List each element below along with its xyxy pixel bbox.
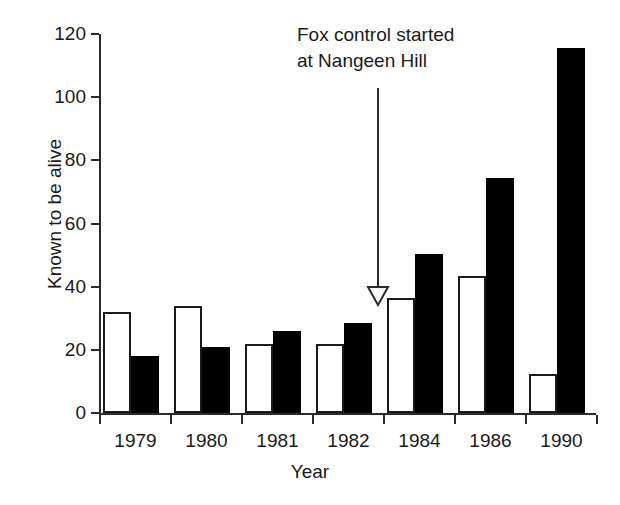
bar-1982-open-bars (316, 344, 344, 413)
x-tick-label: 1979 (100, 430, 171, 452)
y-tick-label: 0 (24, 403, 86, 422)
x-tick-mark (170, 415, 172, 424)
x-tick-mark (596, 415, 598, 424)
annotation-line-2: at Nangeen Hill (297, 48, 454, 74)
bar-1984-open-bars (387, 298, 415, 413)
x-tick-mark (241, 415, 243, 424)
x-tick-mark (454, 415, 456, 424)
y-axis-title: Known to be alive (44, 64, 66, 364)
bar-1979-filled-bars (131, 356, 159, 413)
x-tick-label: 1980 (171, 430, 242, 452)
bar-1981-filled-bars (273, 331, 301, 413)
x-tick-mark (525, 415, 527, 424)
y-axis-line (99, 34, 101, 415)
bar-chart: 020406080100120 197919801981198219841986… (0, 0, 620, 505)
bar-1981-open-bars (245, 344, 273, 413)
bar-1979-open-bars (103, 312, 131, 413)
annotation-line-1: Fox control started (297, 22, 454, 48)
x-axis-line (99, 413, 596, 415)
y-tick-mark (91, 33, 99, 35)
bar-1986-open-bars (458, 276, 486, 413)
annotation-arrow-shaft (377, 88, 379, 286)
x-tick-label: 1986 (455, 430, 526, 452)
x-tick-label: 1984 (384, 430, 455, 452)
bar-1986-filled-bars (486, 178, 514, 413)
y-tick-mark (91, 412, 99, 414)
x-tick-label: 1982 (313, 430, 384, 452)
bar-1990-filled-bars (557, 48, 585, 413)
annotation-arrow-head-icon (366, 285, 390, 307)
y-tick-mark (91, 223, 99, 225)
y-tick-mark (91, 286, 99, 288)
fox-control-annotation: Fox control started at Nangeen Hill (297, 22, 454, 74)
bar-1984-filled-bars (415, 254, 443, 413)
x-tick-mark (383, 415, 385, 424)
x-axis-title: Year (0, 461, 620, 483)
x-tick-label: 1981 (242, 430, 313, 452)
y-tick-mark (91, 96, 99, 98)
x-tick-mark (312, 415, 314, 424)
bar-1990-open-bars (529, 374, 557, 413)
y-tick-mark (91, 159, 99, 161)
y-tick-label: 120 (24, 24, 86, 43)
bar-1980-filled-bars (202, 347, 230, 413)
bar-1982-filled-bars (344, 323, 372, 413)
x-tick-mark (99, 415, 101, 424)
x-tick-label: 1990 (526, 430, 597, 452)
y-tick-mark (91, 349, 99, 351)
bar-1980-open-bars (174, 306, 202, 413)
